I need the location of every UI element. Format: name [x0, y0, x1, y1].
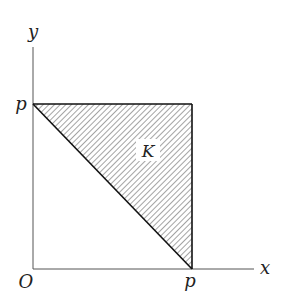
- x-tick-label: p: [184, 270, 196, 291]
- y-axis-label: y: [27, 21, 39, 42]
- x-axis-label: x: [260, 257, 270, 278]
- region-diagram: y p K O p x: [0, 0, 290, 301]
- origin-label: O: [19, 271, 34, 292]
- region-label: K: [141, 141, 156, 161]
- y-tick-label: p: [15, 93, 27, 114]
